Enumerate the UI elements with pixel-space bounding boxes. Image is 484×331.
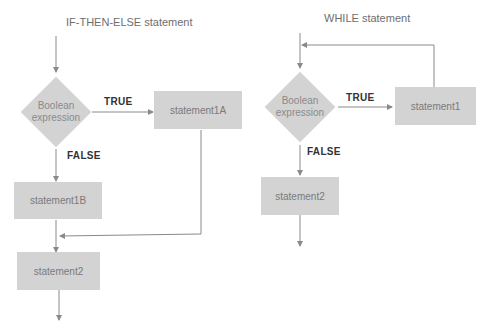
if-true-label: TRUE [104,96,132,107]
statement1b-box: statement1B [14,182,102,219]
if-condition-text: Boolean expression [20,76,92,148]
while-true-label: TRUE [346,92,374,103]
if-condition-diamond: Boolean expression [20,76,92,148]
while-condition-text: Boolean expression [264,71,336,143]
if-then-else-title: IF-THEN-ELSE statement [66,16,193,28]
while-statement2-box: statement2 [261,177,339,215]
statement1-box: statement1 [395,87,476,125]
if-false-label: FALSE [67,150,101,161]
if-statement2-box: statement2 [17,252,100,290]
while-condition-diamond: Boolean expression [264,71,336,143]
while-title: WHILE statement [324,12,410,24]
statement1a-box: statement1A [154,91,242,129]
while-false-label: FALSE [307,146,341,157]
